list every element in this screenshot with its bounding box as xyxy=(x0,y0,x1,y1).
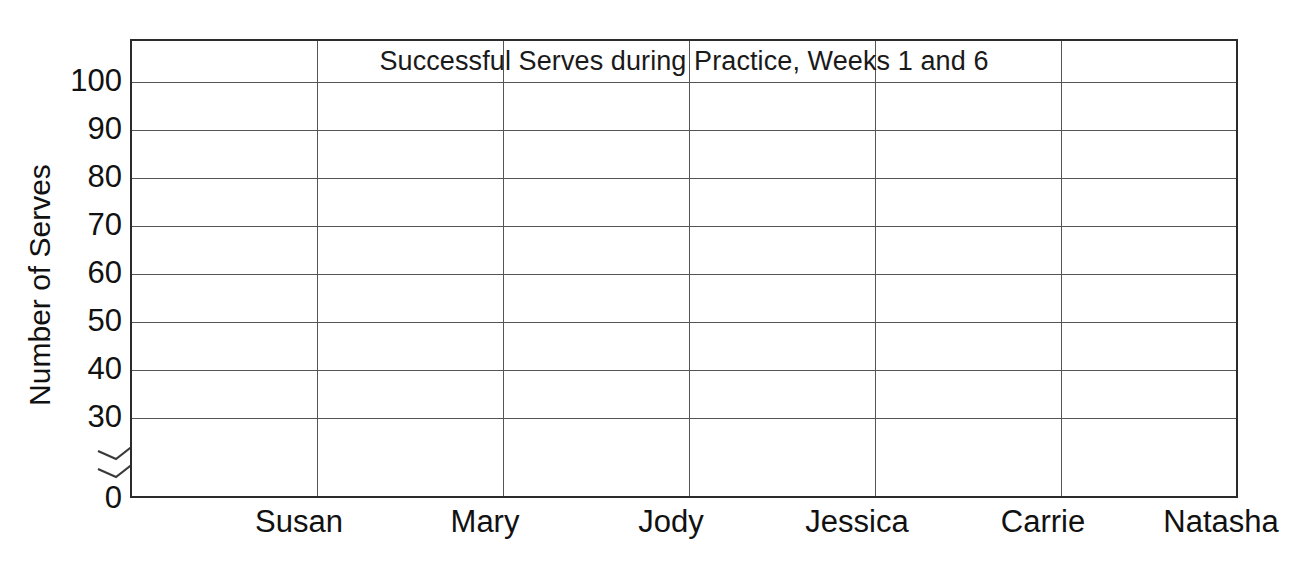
x-axis-tick-labels: SusanMaryJodyJessicaCarrieNatasha xyxy=(0,504,1310,550)
gridline-vertical xyxy=(689,41,690,496)
gridline-vertical xyxy=(875,41,876,496)
gridline-vertical xyxy=(317,41,318,496)
gridline-horizontal xyxy=(132,130,1236,131)
y-axis-tick-label: 50 xyxy=(4,305,122,336)
chart-container: Number of Serves 100908070605040300 Succ… xyxy=(0,0,1310,573)
plot-area xyxy=(130,39,1238,498)
x-axis-tick-label: Carrie xyxy=(1001,504,1085,540)
y-axis-tick-label: 100 xyxy=(4,65,122,96)
gridline-horizontal xyxy=(132,226,1236,227)
x-axis-tick-label: Jody xyxy=(638,504,703,540)
x-axis-tick-label: Jessica xyxy=(805,504,908,540)
x-axis-tick-label: Natasha xyxy=(1163,504,1278,540)
chart-title: Successful Serves during Practice, Weeks… xyxy=(130,41,1238,82)
gridline-horizontal xyxy=(132,370,1236,371)
y-axis-tick-label: 90 xyxy=(4,113,122,144)
gridline-vertical xyxy=(503,41,504,496)
gridline-horizontal xyxy=(132,418,1236,419)
y-axis-tick-label: 60 xyxy=(4,257,122,288)
y-axis-tick-label: 80 xyxy=(4,161,122,192)
x-axis-tick-label: Susan xyxy=(255,504,343,540)
gridline-horizontal xyxy=(132,82,1236,83)
y-axis-tick-labels: 100908070605040300 xyxy=(0,0,122,573)
gridline-horizontal xyxy=(132,322,1236,323)
x-axis-tick-label: Mary xyxy=(451,504,520,540)
y-axis-tick-label: 70 xyxy=(4,209,122,240)
gridline-horizontal xyxy=(132,274,1236,275)
y-axis-tick-label: 40 xyxy=(4,353,122,384)
gridline-horizontal xyxy=(132,178,1236,179)
y-axis-tick-label: 30 xyxy=(4,401,122,432)
gridline-vertical xyxy=(1061,41,1062,496)
